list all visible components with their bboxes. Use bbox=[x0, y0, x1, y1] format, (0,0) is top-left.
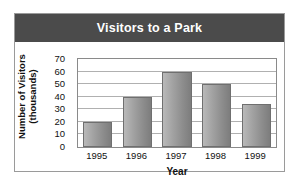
y-tick-label: 40 bbox=[54, 90, 65, 101]
bar-1997 bbox=[162, 72, 191, 147]
y-axis-label-line1: Number of Visitors bbox=[16, 54, 27, 139]
x-axis-label: Year bbox=[77, 166, 277, 177]
y-tick-label: 70 bbox=[54, 53, 65, 64]
page-title: Visitors to a Park bbox=[97, 21, 203, 35]
y-tick-label: 60 bbox=[54, 65, 65, 76]
y-tick-label: 10 bbox=[54, 128, 65, 139]
bar-1998 bbox=[202, 84, 231, 147]
bar-1996 bbox=[123, 97, 152, 147]
bar-1995 bbox=[83, 122, 112, 147]
chart-area: Number of Visitors (thousands) 010203040… bbox=[15, 42, 286, 173]
plot-area bbox=[77, 58, 277, 148]
y-tick-label: 30 bbox=[54, 103, 65, 114]
x-tick-label: 1996 bbox=[126, 150, 147, 161]
gridline bbox=[78, 58, 276, 59]
y-axis-label: Number of Visitors (thousands) bbox=[17, 47, 38, 147]
x-tick-label: 1995 bbox=[86, 150, 107, 161]
y-axis-label-line2: (thousands) bbox=[27, 47, 38, 147]
x-tick-label: 1998 bbox=[205, 150, 226, 161]
chart-title-bar: Visitors to a Park bbox=[15, 14, 284, 42]
y-tick-label: 20 bbox=[54, 115, 65, 126]
y-tick-label: 0 bbox=[60, 141, 65, 152]
x-tick-label: 1997 bbox=[165, 150, 186, 161]
bar-1999 bbox=[242, 104, 271, 147]
y-tick-label: 50 bbox=[54, 78, 65, 89]
y-axis-ticks: 010203040506070 bbox=[45, 58, 65, 148]
x-tick-label: 1999 bbox=[245, 150, 266, 161]
chart-card: Visitors to a Park Number of Visitors (t… bbox=[14, 13, 285, 172]
x-axis-ticks: 19951996199719981999 bbox=[77, 150, 277, 164]
